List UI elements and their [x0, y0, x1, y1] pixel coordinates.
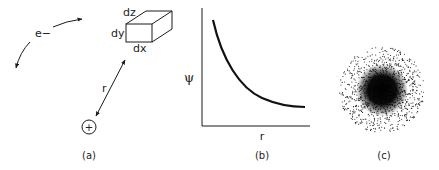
- dz-label: dz: [123, 6, 136, 19]
- figure: e− dz dy dx r + (a) ψ r (b) (c): [0, 0, 439, 170]
- distance-arrow: [96, 60, 125, 116]
- caption-a: (a): [82, 150, 96, 161]
- psi-curve: [213, 20, 305, 107]
- panel-a: e− dz dy dx r + (a): [16, 6, 172, 161]
- distance-label: r: [102, 82, 107, 95]
- cloud-core: [356, 64, 408, 116]
- caption-b: (b): [255, 150, 269, 161]
- panel-b: ψ r (b): [184, 8, 310, 161]
- electron-label: e−: [35, 27, 51, 40]
- y-axis-label: ψ: [184, 70, 194, 85]
- dx-label: dx: [133, 42, 147, 55]
- orbit-arrow-upper: [53, 19, 82, 27]
- nucleus-plus: +: [85, 122, 93, 133]
- caption-c: (c): [377, 150, 390, 161]
- x-axis-label: r: [260, 130, 265, 143]
- panel-c: (c): [339, 47, 424, 161]
- dy-label: dy: [111, 27, 125, 40]
- orbit-arrow-lower: [16, 42, 30, 68]
